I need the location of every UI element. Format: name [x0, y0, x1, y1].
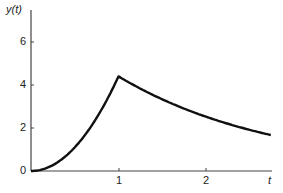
x-tick-label-1: 1	[116, 174, 122, 186]
x-tick-label-2: 2	[203, 174, 209, 186]
y-tick-label-4: 4	[20, 78, 26, 90]
chart-canvas	[0, 0, 283, 193]
x-axis-label: t	[268, 174, 271, 186]
y-tick-label-2: 2	[20, 121, 26, 133]
response-curve	[31, 76, 271, 171]
y-tick-label-0: 0	[20, 164, 26, 176]
y-axis-label: y(t)	[6, 3, 22, 15]
y-tick-label-6: 6	[20, 35, 26, 47]
